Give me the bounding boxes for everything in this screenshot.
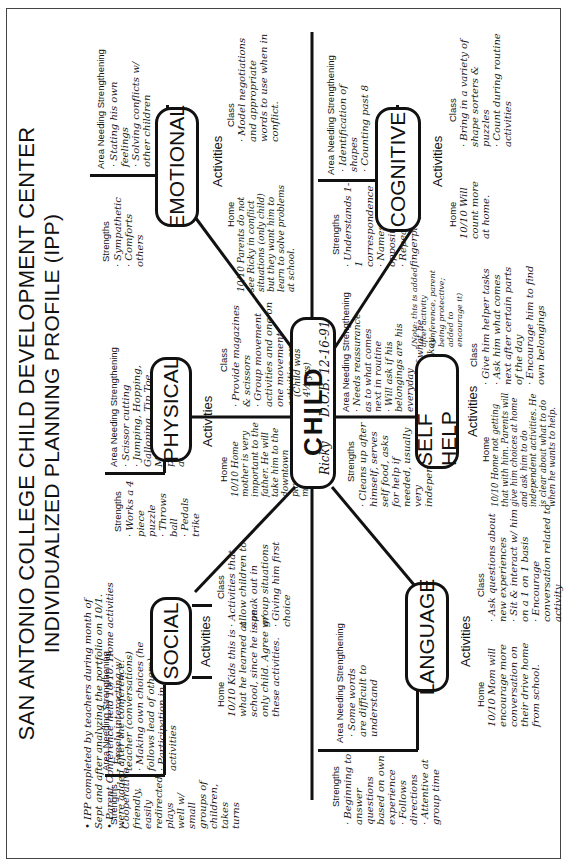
emotional-home: 10/10 Parents do not see Ricky in confli… <box>236 182 296 292</box>
activities-label: Activities <box>198 616 213 667</box>
activities-label: Activities <box>458 616 473 667</box>
strengths-label: Strengths <box>112 491 123 532</box>
class-label: Class <box>225 103 236 127</box>
strengths-label: Strengths <box>108 784 119 825</box>
strengths-label: Strengths <box>345 441 356 482</box>
area-needing-label: Area Needing Strengthening <box>325 55 336 175</box>
activities-label: Activities <box>465 386 480 437</box>
language-class: · Ask questions about new experiences · … <box>486 502 563 622</box>
home-label: Home <box>218 457 229 482</box>
self-help-note: (Note: this is added after activity conf… <box>410 267 464 347</box>
class-label: Class <box>447 98 458 122</box>
home-label: Home <box>225 202 236 227</box>
language-strengths: · Beginning to answer questions based on… <box>342 750 441 825</box>
language-box: LANGUAGE <box>405 582 449 692</box>
strengths-label: Strengths <box>330 766 341 807</box>
physical-box: PHYSICAL <box>150 357 192 462</box>
emotional-box: EMOTIONAL <box>155 107 199 227</box>
self-help-box: SELF HELP <box>415 354 459 469</box>
language-home: 10/10 Mom will encourage more conversati… <box>486 627 541 727</box>
stem <box>192 676 212 679</box>
class-label: Class <box>475 573 486 597</box>
physical-strengths: · Works a 4 piece puzzle · Throws ball ·… <box>124 477 201 537</box>
area-needing-label: Area Needing Strengthening <box>108 347 119 467</box>
cognitive-class: · Bring in a variety of shape sorters & … <box>458 27 513 147</box>
class-label: Class <box>215 575 226 599</box>
strengths-label: Strengths <box>100 221 111 262</box>
self-help-home: 10/10 Home not getting that with him. Pa… <box>491 387 558 507</box>
social-strengths: Cooperative, friendly, easily redirected… <box>120 779 241 829</box>
cognitive-home: 10/10 Will count more at home. <box>458 179 491 239</box>
emotional-class: · Model negotiations and appropriate wor… <box>236 32 280 142</box>
class-label: Class <box>468 343 479 367</box>
area-needing-label: Area Needing Strengthening <box>340 292 351 412</box>
activities-label: Activities <box>210 136 225 187</box>
child-dob: D.O.B. 12-16-91 <box>318 321 332 417</box>
home-label: Home <box>475 682 486 707</box>
social-class: · Activities that allow children to spea… <box>226 532 292 627</box>
social-box: SOCIAL <box>150 597 192 685</box>
ipp-document-page: SAN ANTONIO COLLEGE CHILD DEVELOPMENT CE… <box>0 0 570 867</box>
class-label: Class <box>218 348 229 372</box>
child-age-note: (Child was 4½ yrs) <box>292 337 312 397</box>
emotional-strengths: · Sympathetic · Comforts others <box>112 182 145 267</box>
area-needing-label: Area Needing Strengthening <box>100 651 111 771</box>
activities-label: Activities <box>200 396 215 447</box>
child-name: Ricky <box>318 441 332 475</box>
cognitive-box: COGNITIVE <box>375 107 421 232</box>
divider <box>105 472 165 475</box>
stem <box>192 604 212 607</box>
cognitive-area-needing: · Identification of shapes · Counting pa… <box>337 47 370 172</box>
home-label: Home <box>447 202 458 227</box>
area-needing-label: Area Needing Strengthening <box>334 623 345 743</box>
language-area-needing: · Some words are difficult to understand <box>346 657 379 737</box>
strengths-label: Strengths <box>330 214 341 255</box>
emotional-area-needing: · Stating his own feelings · Solving con… <box>108 47 152 167</box>
home-label: Home <box>215 682 226 707</box>
area-needing-label: Area Needing Strengthening <box>95 49 106 169</box>
activities-label: Activities <box>430 136 445 187</box>
self-help-class: · Give him helper tasks · Ask him what c… <box>480 255 546 385</box>
